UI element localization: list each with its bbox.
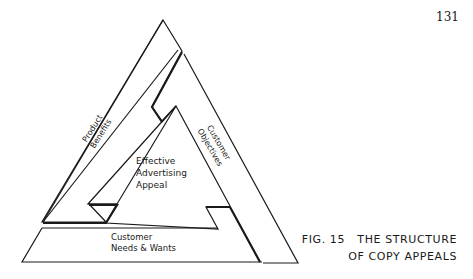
left-separator <box>152 52 182 122</box>
figure-caption: FIG. 15 THE STRUCTURE OF COPY APPEALS <box>302 231 457 265</box>
thick-right-step <box>206 207 260 262</box>
customer-needs-label: Customer Needs & Wants <box>111 232 176 254</box>
customer-objectives-outer <box>184 54 298 263</box>
effective-advertising-appeal-label: Effective Advertising Appeal <box>136 155 187 191</box>
